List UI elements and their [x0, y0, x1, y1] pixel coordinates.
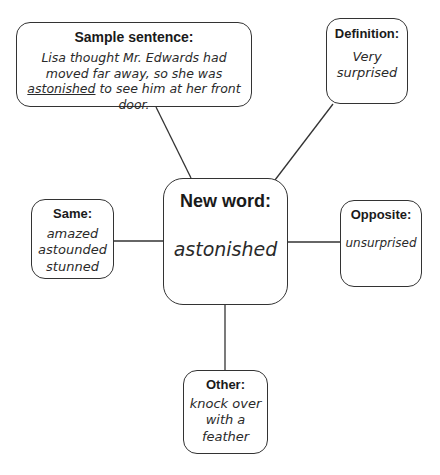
new-word-title: New word:	[164, 191, 287, 212]
other-title: Other:	[184, 377, 267, 392]
sample-sentence-after: to see him at her front door.	[96, 81, 241, 112]
new-word-value: astonished	[164, 238, 287, 262]
sample-sentence-underlined-word: astonished	[27, 81, 95, 96]
definition-title: Definition:	[327, 26, 407, 41]
other-box: Other: knock over with a feather	[183, 370, 268, 454]
same-box: Same: amazed astounded stunned	[31, 199, 114, 279]
opposite-title: Opposite:	[341, 207, 421, 222]
definition-text: Very surprised	[327, 49, 407, 82]
sample-sentence-box: Sample sentence: Lisa thought Mr. Edward…	[16, 22, 252, 107]
same-title: Same:	[32, 206, 113, 221]
definition-box: Definition: Very surprised	[326, 18, 408, 104]
same-list: amazed astounded stunned	[32, 226, 113, 275]
new-word-box: New word: astonished	[163, 178, 288, 305]
sample-sentence-text: Lisa thought Mr. Edwards had moved far a…	[23, 50, 245, 113]
opposite-box: Opposite: unsurprised	[340, 200, 422, 287]
sample-sentence-title: Sample sentence:	[17, 29, 251, 45]
opposite-text: unsurprised	[341, 236, 421, 251]
other-text: knock over with a feather	[184, 396, 267, 445]
sample-sentence-before: Lisa thought Mr. Edwards had moved far a…	[41, 50, 226, 81]
